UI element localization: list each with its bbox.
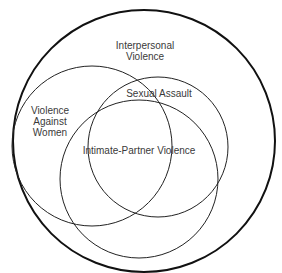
label-line: Violence [113, 51, 177, 62]
sexual-assault-label: Sexual Assault [122, 88, 196, 99]
violence-against-women-label: Violence Against Women [26, 105, 74, 138]
interpersonal-violence-label: Interpersonal Violence [113, 40, 177, 62]
intimate-partner-violence-label: Intimate-Partner Violence [78, 145, 200, 156]
intimate-partner-violence-circle [60, 100, 218, 258]
label-line: Women [26, 127, 74, 138]
label-line: Against [26, 116, 74, 127]
label-line: Violence [26, 105, 74, 116]
label-line: Interpersonal [113, 40, 177, 51]
